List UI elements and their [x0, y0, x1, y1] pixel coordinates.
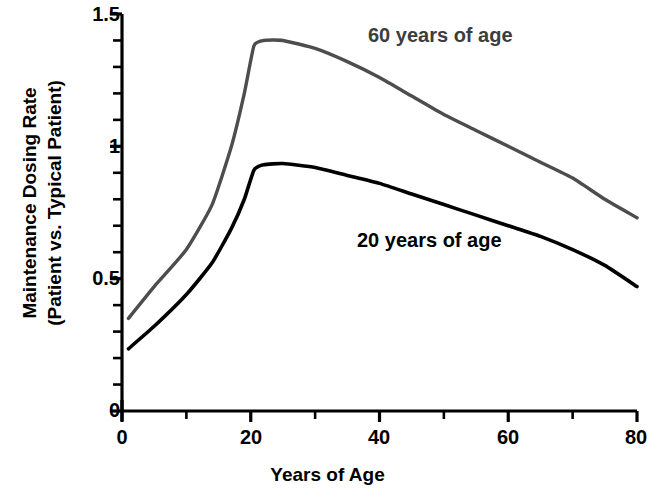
- series-line-20-years-of-age: [128, 164, 637, 349]
- series-line-60-years-of-age: [128, 40, 637, 318]
- data-series: [128, 40, 637, 349]
- plot-area: [0, 0, 655, 499]
- chart-figure: Maintenance Dosing Rate (Patient vs. Typ…: [0, 0, 655, 499]
- y-axis-ticks: [110, 14, 122, 411]
